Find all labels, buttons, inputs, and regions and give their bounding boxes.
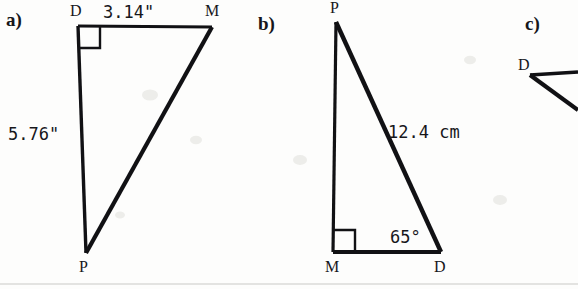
scan-speck <box>493 195 507 205</box>
figure-a-vertex-label-D: D <box>70 2 82 19</box>
scan-speck <box>142 89 158 100</box>
scan-speck <box>115 212 125 219</box>
figure-c-part-label: c) <box>525 13 540 35</box>
scan-speck <box>190 136 202 144</box>
figure-a-measure-DM: 3.14" <box>103 2 154 22</box>
figure-b-vertex-label-D: D <box>434 258 446 275</box>
figure-b-vertex-label-P: P <box>330 0 339 16</box>
figure-b-part-label: b) <box>258 13 275 35</box>
scan-speck <box>293 155 307 165</box>
scan-speck <box>464 56 476 64</box>
figure-c-vertex-label-D: D <box>518 56 530 73</box>
worksheet-page: a) D M P 3.14" 5.76" b) P M D 12 <box>0 0 578 289</box>
figure-a-part-label: a) <box>6 9 22 31</box>
figures-canvas: a) D M P 3.14" 5.76" b) P M D 12 <box>0 0 578 289</box>
figure-b-angle-label-D: 65° <box>390 227 421 247</box>
figure-b-measure-PD: 12.4 cm <box>388 122 460 142</box>
figure-a-vertex-label-P: P <box>79 258 88 275</box>
figure-a-side-DM <box>78 26 212 27</box>
figure-b-vertex-label-M: M <box>325 258 339 275</box>
figure-a-vertex-label-M: M <box>205 2 219 19</box>
figure-a-measure-DP: 5.76" <box>8 124 59 144</box>
